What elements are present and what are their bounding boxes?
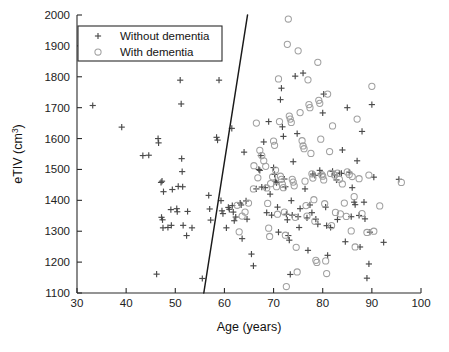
- data-point-plus: [302, 186, 308, 192]
- data-point-plus: [214, 137, 220, 143]
- data-point-circle: [295, 48, 301, 54]
- data-point-plus: [339, 147, 345, 153]
- data-point-circle: [341, 200, 347, 206]
- data-point-circle: [369, 83, 375, 89]
- x-tick-label: 80: [316, 297, 329, 309]
- data-point-circle: [274, 211, 280, 217]
- data-point-plus: [366, 261, 372, 267]
- data-point-plus: [213, 134, 219, 140]
- data-point-plus: [189, 225, 195, 231]
- data-point-circle: [267, 233, 273, 239]
- data-point-plus: [278, 85, 284, 91]
- data-point-plus: [208, 217, 214, 223]
- data-point-circle: [311, 197, 317, 203]
- data-point-plus: [174, 209, 180, 215]
- data-point-plus: [180, 184, 186, 190]
- x-tick-label: 50: [169, 297, 182, 309]
- data-point-plus: [361, 199, 367, 205]
- data-point-plus: [290, 159, 296, 165]
- data-point-circle: [297, 110, 303, 116]
- data-point-plus: [119, 124, 125, 130]
- data-point-plus: [159, 178, 165, 184]
- y-tick-label: 1300: [44, 225, 70, 237]
- data-point-plus: [364, 275, 370, 281]
- data-point-plus: [155, 140, 161, 146]
- data-point-circle: [271, 142, 277, 148]
- data-point-circle: [276, 118, 282, 124]
- data-point-plus: [178, 101, 184, 107]
- y-tick-label: 1700: [44, 102, 70, 114]
- data-point-plus: [168, 207, 174, 213]
- data-point-plus: [277, 97, 283, 103]
- data-point-plus: [284, 217, 290, 223]
- data-point-circle: [371, 228, 377, 234]
- data-point-plus: [179, 169, 185, 175]
- data-point-plus: [216, 77, 222, 83]
- data-point-plus: [231, 218, 237, 224]
- data-point-plus: [342, 239, 348, 245]
- y-tick-label: 1200: [44, 256, 70, 268]
- data-point-plus: [158, 179, 164, 185]
- data-point-circle: [318, 136, 324, 142]
- data-point-circle: [293, 244, 299, 250]
- data-point-circle: [275, 76, 281, 82]
- data-point-circle: [291, 183, 297, 189]
- data-point-circle: [339, 181, 345, 187]
- data-point-plus: [206, 192, 212, 198]
- data-point-circle: [354, 116, 360, 122]
- data-point-plus: [177, 77, 183, 83]
- data-point-circle: [314, 259, 320, 265]
- x-tick-label: 60: [218, 297, 231, 309]
- data-point-plus: [146, 152, 152, 158]
- x-tick-labels: 30405060708090100: [71, 297, 431, 309]
- y-tick-label: 1800: [44, 71, 70, 83]
- data-point-plus: [248, 251, 254, 257]
- data-point-plus: [199, 275, 205, 281]
- data-point-circle: [236, 229, 242, 235]
- data-point-circle: [329, 123, 335, 129]
- y-tick-label: 1900: [44, 40, 70, 52]
- data-point-circle: [321, 177, 327, 183]
- data-point-plus: [154, 271, 160, 277]
- data-point-plus: [349, 185, 355, 191]
- data-point-circle: [315, 59, 321, 65]
- data-point-circle: [285, 16, 291, 22]
- y-tick-label: 2000: [44, 9, 70, 21]
- data-point-plus: [160, 189, 166, 195]
- data-point-circle: [253, 120, 259, 126]
- y-tick-label: 1600: [44, 133, 70, 145]
- data-point-plus: [220, 211, 226, 217]
- data-point-circle: [377, 203, 383, 209]
- x-tick-label: 30: [71, 297, 84, 309]
- data-point-circle: [283, 283, 289, 289]
- x-tick-label: 100: [411, 297, 430, 309]
- data-point-plus: [219, 208, 225, 214]
- data-point-plus: [369, 101, 375, 107]
- data-point-plus: [223, 225, 229, 231]
- data-point-plus: [169, 186, 175, 192]
- data-point-circle: [308, 150, 314, 156]
- data-point-plus: [241, 149, 247, 155]
- scatter-plot-figure: 30405060708090100 1100120013001400150016…: [0, 0, 449, 352]
- legend: Without dementiaWith dementia: [78, 26, 222, 61]
- data-point-plus: [344, 105, 350, 111]
- y-tick-label: 1400: [44, 194, 70, 206]
- data-point-plus: [207, 206, 213, 212]
- data-point-plus: [381, 239, 387, 245]
- y-tick-label: 1500: [44, 163, 70, 175]
- y-axis-title-main: eTIV (cm: [11, 133, 25, 184]
- data-point-plus: [257, 167, 263, 173]
- data-point-plus: [250, 263, 256, 269]
- y-axis-title: eTIV (cm3): [10, 124, 25, 184]
- data-point-plus: [261, 139, 267, 145]
- data-point-plus: [354, 158, 360, 164]
- data-point-circle: [348, 228, 354, 234]
- x-tick-label: 70: [267, 297, 280, 309]
- data-point-plus: [266, 118, 272, 124]
- data-point-circle: [268, 181, 274, 187]
- data-point-plus: [267, 191, 273, 197]
- y-tick-labels: 1100120013001400150016001700180019002000: [44, 9, 70, 299]
- data-point-plus: [184, 208, 190, 214]
- data-point-plus: [359, 128, 365, 134]
- data-point-plus: [297, 206, 303, 212]
